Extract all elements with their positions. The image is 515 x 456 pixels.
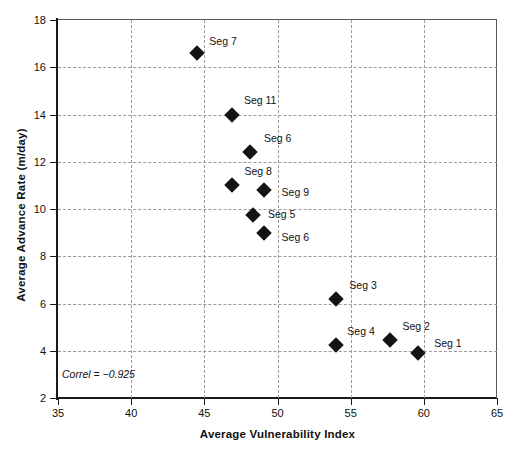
data-point-label: Seg 3 bbox=[349, 279, 376, 291]
y-tick-label: 6 bbox=[40, 298, 46, 310]
data-point-label: Seg 1 bbox=[434, 337, 461, 349]
data-point-marker[interactable] bbox=[257, 225, 273, 241]
data-point-label: Seg 6 bbox=[264, 132, 291, 144]
x-tick-mark bbox=[278, 398, 279, 405]
data-point-label: Seg 2 bbox=[402, 320, 429, 332]
data-point-marker[interactable] bbox=[224, 107, 240, 123]
y-tick-mark bbox=[50, 20, 57, 21]
gridline-vertical bbox=[204, 20, 205, 398]
gridline-vertical bbox=[351, 20, 352, 398]
y-tick-mark bbox=[50, 256, 57, 257]
gridline-vertical bbox=[131, 20, 132, 398]
data-point-label: Seg 11 bbox=[244, 94, 277, 106]
y-tick-mark bbox=[50, 209, 57, 210]
x-tick-mark bbox=[497, 398, 498, 405]
x-tick-label: 55 bbox=[345, 407, 357, 419]
y-tick-mark bbox=[50, 162, 57, 163]
y-tick-mark bbox=[50, 351, 57, 352]
y-tick-label: 8 bbox=[40, 250, 46, 262]
x-tick-label: 35 bbox=[52, 407, 64, 419]
x-tick-label: 65 bbox=[491, 407, 503, 419]
y-tick-label: 10 bbox=[34, 203, 46, 215]
x-tick-label: 50 bbox=[271, 407, 283, 419]
y-axis-title: Average Advance Rate (m/day) bbox=[15, 15, 27, 415]
x-tick-mark bbox=[424, 398, 425, 405]
data-point-label: Seg 8 bbox=[244, 165, 271, 177]
y-tick-label: 4 bbox=[40, 345, 46, 357]
x-tick-label: 60 bbox=[418, 407, 430, 419]
data-point-marker[interactable] bbox=[382, 332, 398, 348]
data-point-label: Seg 5 bbox=[268, 208, 295, 220]
x-tick-mark bbox=[131, 398, 132, 405]
data-point-marker[interactable] bbox=[257, 182, 273, 198]
scatter-plot-figure: 24681012141618 35404550556065 Seg 7Seg 1… bbox=[0, 0, 515, 456]
x-tick-mark bbox=[58, 398, 59, 405]
y-tick-label: 18 bbox=[34, 14, 46, 26]
data-point-marker[interactable] bbox=[224, 178, 240, 194]
y-tick-label: 2 bbox=[40, 392, 46, 404]
x-axis-title: Average Vulnerability Index bbox=[58, 428, 497, 440]
y-tick-label: 12 bbox=[34, 156, 46, 168]
x-tick-mark bbox=[351, 398, 352, 405]
data-point-label: Seg 7 bbox=[209, 35, 236, 47]
data-point-marker[interactable] bbox=[242, 145, 258, 161]
data-point-label: Seg 9 bbox=[282, 186, 309, 198]
correlation-annotation: Correl = −0.925 bbox=[62, 368, 135, 380]
data-point-label: Seg 4 bbox=[347, 325, 374, 337]
y-tick-label: 14 bbox=[34, 109, 46, 121]
x-tick-label: 45 bbox=[198, 407, 210, 419]
x-tick-mark bbox=[204, 398, 205, 405]
data-point-label: Seg 6 bbox=[282, 231, 309, 243]
y-tick-mark bbox=[50, 115, 57, 116]
gridline-vertical bbox=[424, 20, 425, 398]
data-point-marker[interactable] bbox=[189, 45, 205, 61]
y-tick-mark bbox=[50, 398, 57, 399]
x-tick-label: 40 bbox=[125, 407, 137, 419]
y-tick-mark bbox=[50, 304, 57, 305]
plot-area: 24681012141618 35404550556065 Seg 7Seg 1… bbox=[58, 20, 497, 398]
y-tick-label: 16 bbox=[34, 61, 46, 73]
y-tick-mark bbox=[50, 67, 57, 68]
